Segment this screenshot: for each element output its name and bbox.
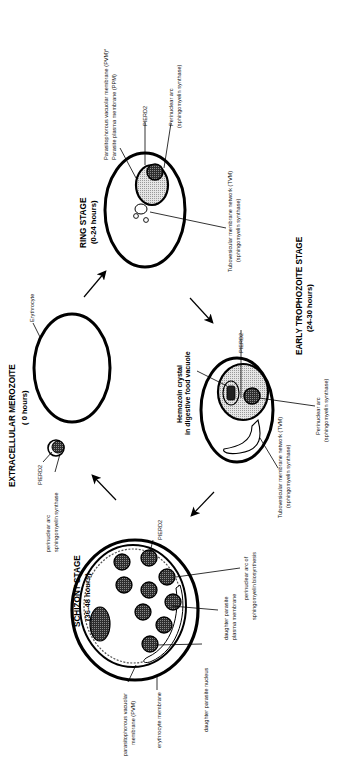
- schizont-pvm-sub-label: membrane (PVM): [130, 701, 136, 745]
- merozoite-pierd2-label: PIERD2: [37, 465, 43, 485]
- ring-tvm-leader: [150, 212, 226, 228]
- schizont-arc-sub-label: sphingomyelin biosynthesis: [251, 552, 257, 620]
- arrow-trophozoite-to-schizont: [192, 492, 214, 515]
- hemozoin-crystal: [227, 386, 235, 400]
- merozoite-arc-sub-label: sphingomyelin synthase: [53, 492, 59, 552]
- ring-arc-sub-label: (sphingomyelin synthase): [176, 64, 182, 128]
- erythrocyte-stage: Erythrocyte: [29, 294, 110, 422]
- ring-tvm-vesicle: [144, 218, 149, 223]
- ring-pvm-label: Parasitophorous vacuolar membrane (PVM)*: [103, 48, 109, 160]
- trophozoite-stage: Hemozoin crystal in digestive food vacuo…: [176, 236, 329, 518]
- schizont-pierd2-label: PIERD2: [157, 520, 163, 540]
- schizont-erythrocyte-membrane-label: erythrocyte membrane: [156, 692, 162, 748]
- trophozoite-tvm-label: Tubovesicular membrane network (TVM): [277, 417, 283, 518]
- ring-subtitle: (0-24 hours): [89, 200, 98, 244]
- arrow-schizont-to-merozoite: [93, 476, 116, 500]
- schizont-arc-label: perinuclear arc of: [243, 556, 249, 600]
- ring-tvm-vesicle: [135, 204, 147, 214]
- schizont-daughter-ppm-label: daughter parasite: [223, 596, 229, 640]
- ring-nucleus: [147, 164, 163, 180]
- trophozoite-subtitle: (24-30 hours): [305, 284, 314, 332]
- cycle-arrows: [84, 272, 214, 515]
- ring-tvm-vesicle: [134, 214, 139, 219]
- schizont-daughter-ppm-sub-label: plasma membrane: [231, 594, 237, 640]
- erythrocyte-leader: [33, 323, 40, 337]
- trophozoite-arc-label: Perinuclear arc: [315, 397, 321, 435]
- ring-arc-label: Perinuclear arc: [168, 88, 174, 126]
- uninfected-erythrocyte: [34, 314, 110, 422]
- trophozoite-title: EARLY TROPHOZOITE STAGE: [295, 236, 304, 355]
- schizont-residual-body: [90, 607, 110, 641]
- merozoite-subtitle: ( 0 hours): [20, 390, 29, 425]
- schizont-daughter-nucleus-label: daughter parasite nucleus: [203, 667, 209, 732]
- trophozoite-tvm: [224, 420, 260, 454]
- merozoite-title: EXTRACELLULAR MEROZOITE: [8, 364, 17, 487]
- trophozoite-arc-sub-label: (sphingomyelin synthase): [323, 378, 329, 442]
- arrow-erythrocyte-to-ring: [84, 272, 105, 297]
- ring-tvm-sub-label: (sphingomyelin synthase): [235, 198, 241, 262]
- trophozoite-tvm-leader: [260, 438, 278, 468]
- erythrocyte-label: Erythrocyte: [29, 294, 35, 322]
- ring-tvm-label: Tubovesicular membrane network (TVM): [227, 171, 233, 272]
- schizont-pvm-label: parasitophorous vacuolar: [122, 693, 128, 756]
- ring-ppm-label: Parasite plasma membrane (PPM): [111, 74, 117, 160]
- ring-stage: RING STAGE (0-24 hours) Parasitophorous …: [79, 48, 241, 272]
- trophozoite-nucleus: [244, 388, 260, 404]
- merozoite-stage: EXTRACELLULAR MEROZOITE ( 0 hours) PIERD…: [8, 364, 64, 552]
- trophozoite-pierd2-label: PIERD2: [238, 333, 244, 353]
- life-cycle-diagram: RING STAGE (0-24 hours) Parasitophorous …: [0, 0, 340, 770]
- merozoite-pierd2-leader: [43, 452, 52, 462]
- schizont-stage: SCHIZONT STAGE (36-48 hours) PIERD2 peri…: [72, 520, 257, 756]
- merozoite-nucleus: [52, 441, 64, 453]
- schizont-subtitle: (36-48 hours): [83, 573, 92, 621]
- schizont-title: SCHIZONT STAGE: [73, 555, 82, 627]
- trophozoite-tvm-sub-label: (sphingomyelin synthase): [285, 444, 291, 508]
- hemozoin-sub-label: in digestive food vacuole: [184, 351, 192, 435]
- ring-pierd2-label: PIERD2: [142, 106, 148, 126]
- ring-title: RING STAGE: [79, 197, 88, 248]
- merozoite-arc-label: perinuclear arc: [45, 515, 51, 552]
- hemozoin-label: Hemozoin crystal: [176, 365, 184, 423]
- arrow-ring-to-trophozoite: [190, 298, 212, 322]
